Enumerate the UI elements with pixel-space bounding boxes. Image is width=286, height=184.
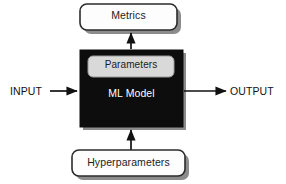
parameters-label: Parameters <box>88 60 174 70</box>
diagram-canvas: Metrics Parameters ML Model Hyperparamet… <box>0 0 286 184</box>
output-label: OUTPUT <box>230 86 274 97</box>
ml-model-label: ML Model <box>80 88 183 99</box>
input-label: INPUT <box>10 86 42 97</box>
hyperparameters-label: Hyperparameters <box>72 157 185 168</box>
metrics-label: Metrics <box>80 10 177 21</box>
